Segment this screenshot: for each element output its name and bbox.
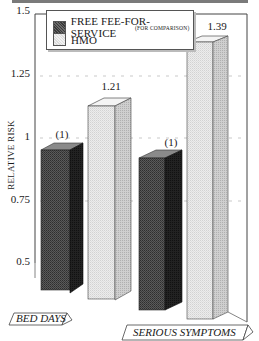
bar-bed-days-hmo [88,98,131,300]
ytick-0-5: 0.5 [0,255,30,267]
value-label-bed-days-hmo: 1.21 [91,80,131,92]
legend-item-hmo: HMO [53,33,97,46]
value-label-symptoms-ffs: (1) [151,136,191,148]
bar-symptoms-hmo [187,36,228,319]
bar-symptoms-ffs [139,150,182,310]
category-label-bed-days: BED DAYS [16,312,66,324]
relative-risk-chart: 1.5 1.25 1 0.75 0.5 RELATIVE RISK FREE F… [0,0,259,341]
dark-swatch-icon [53,21,66,34]
plot-frame [0,0,259,341]
ytick-1-5: 1.5 [0,4,30,16]
value-label-symptoms-hmo: 1.39 [197,20,237,32]
legend-label-hmo: HMO [71,34,97,46]
y-axis-label: RELATIVE RISK [6,110,16,200]
bar-bed-days-ffs [41,143,83,293]
ytick-1-25: 1.25 [0,67,30,79]
legend: FREE FEE-FOR-SERVICE (FOR COMPARISON) HM… [46,10,194,50]
light-swatch-icon [53,33,66,46]
value-label-bed-days-ffs: (1) [42,128,82,140]
legend-sublabel-ffs: (FOR COMPARISON) [135,25,190,31]
category-label-serious-symptoms: SERIOUS SYMPTOMS [133,326,236,338]
